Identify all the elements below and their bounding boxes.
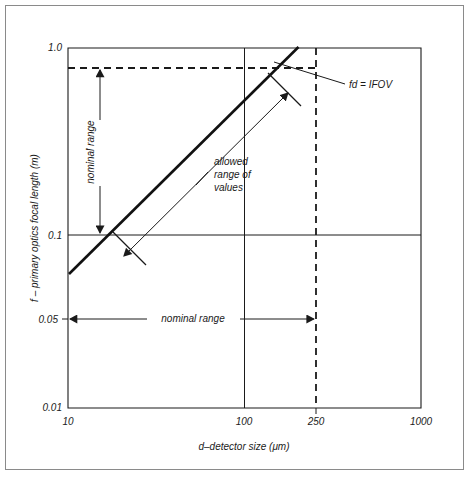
chart-canvas: 1.0 0.1 0.05 0.01 10 100 250 1000 d–dete…: [0, 0, 471, 477]
figure-container: 1.0 0.1 0.05 0.01 10 100 250 1000 d–dete…: [0, 0, 471, 477]
allowed-range-label-line1: allowed: [214, 156, 248, 167]
horizontal-nominal-range-label-top: nominal range: [161, 313, 225, 324]
vertical-nominal-range-label-top: nominal range: [85, 120, 96, 184]
ytick-label-0p05: 0.05: [39, 314, 59, 325]
ytick-label-0p1: 0.1: [48, 230, 62, 241]
ytick-label-0p01: 0.01: [43, 402, 62, 413]
xtick-label-1000: 1000: [410, 416, 433, 427]
y-axis-title: f – primary optics focal length (m): [29, 154, 40, 302]
allowed-range-label-line3: values: [214, 182, 243, 193]
xtick-label-100: 100: [236, 416, 253, 427]
x-axis-title: d–detector size (μm): [198, 441, 289, 452]
allowed-range-arrow: [113, 73, 301, 265]
allowed-range-leader: [196, 172, 208, 185]
curve-label-text: fd = IFOV: [349, 79, 393, 90]
curve-label-leader: [274, 62, 345, 84]
ytick-label-1p0: 1.0: [48, 42, 62, 53]
xtick-label-250: 250: [307, 416, 325, 427]
allowed-range-label-line2: range of: [214, 169, 252, 180]
series-fd-ifov: [69, 47, 299, 274]
axis-ticks: [62, 319, 316, 414]
xtick-label-10: 10: [62, 416, 74, 427]
